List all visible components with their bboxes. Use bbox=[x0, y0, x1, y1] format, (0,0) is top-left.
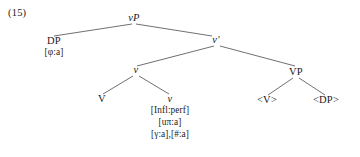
node-v-bar: v′ bbox=[212, 34, 219, 46]
feature-upi: [uπ:a] bbox=[151, 117, 189, 129]
node-label: DP bbox=[45, 35, 64, 47]
branch-v-littlev bbox=[139, 76, 169, 94]
feature-phi: [φ:a] bbox=[45, 47, 64, 59]
branch-vp-dp bbox=[54, 24, 132, 36]
branch-vbar-vp bbox=[220, 46, 295, 66]
node-label: <DP> bbox=[313, 94, 339, 106]
node-label: v bbox=[134, 64, 139, 76]
feature-gamma-num: [γ:a],[#:a] bbox=[151, 129, 189, 141]
node-trace-v: <V> bbox=[257, 94, 277, 106]
feature-bundle-little-v: [Infl:perf] [uπ:a] [γ:a],[#:a] bbox=[151, 105, 189, 141]
branch-vp-traceV bbox=[268, 78, 293, 95]
branch-vbar-v bbox=[137, 46, 214, 66]
feature-infl: [Infl:perf] bbox=[151, 105, 189, 117]
node-label: v bbox=[151, 93, 189, 105]
tree-diagram-figure: (15) vP DP [φ:a] v′ v VP V bbox=[0, 0, 360, 157]
node-label: VP bbox=[289, 66, 303, 78]
node-vp: VP bbox=[289, 66, 303, 78]
node-label: v′ bbox=[212, 34, 219, 46]
node-terminal-little-v: v [Infl:perf] [uπ:a] [γ:a],[#:a] bbox=[151, 93, 189, 141]
branch-v-bigv bbox=[103, 76, 133, 94]
node-trace-dp: <DP> bbox=[313, 94, 339, 106]
feature-bundle-dp: [φ:a] bbox=[45, 47, 64, 59]
node-dp-specifier: DP [φ:a] bbox=[45, 35, 64, 59]
node-label: V bbox=[98, 93, 106, 105]
node-label: <V> bbox=[257, 94, 277, 106]
node-v-inner: v bbox=[134, 64, 139, 76]
branch-vp-vbar bbox=[136, 24, 212, 36]
node-terminal-v-root: V bbox=[98, 93, 106, 105]
node-vp-root: vP bbox=[128, 12, 139, 24]
branch-vp-traceDP bbox=[299, 78, 325, 95]
node-label: vP bbox=[128, 12, 139, 24]
